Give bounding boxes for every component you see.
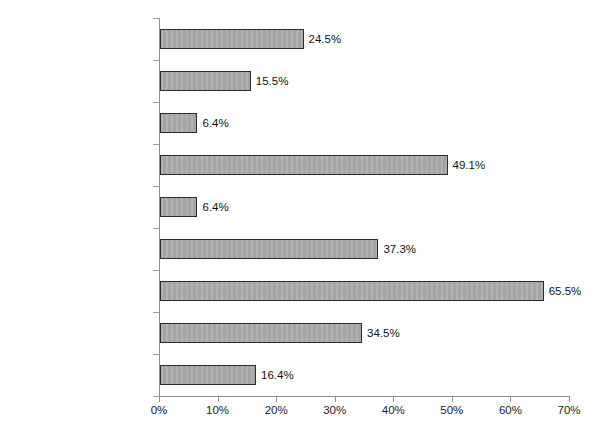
chart-category-row: Managed Care Organization37.3% (0, 228, 599, 270)
bar[interactable] (160, 155, 448, 175)
x-axis-tick (510, 396, 511, 402)
x-axis-tick-label: 30% (305, 404, 365, 416)
bar[interactable] (160, 281, 544, 301)
bar-value-label: 65.5% (549, 281, 582, 301)
bar[interactable] (160, 239, 378, 259)
bar[interactable] (160, 365, 256, 385)
chart-category-row: Long-term Care Facility6.4% (0, 186, 599, 228)
chart-category-row: Physician/Hospital Organization34.5% (0, 312, 599, 354)
x-axis-tick-label: 0% (129, 404, 189, 416)
x-axis-tick (452, 396, 453, 402)
chart-category-row: Physician Group Practice65.5% (0, 270, 599, 312)
chart-category-row: Hospital49.1% (0, 144, 599, 186)
value-axis-line (159, 396, 569, 397)
x-axis-tick (393, 396, 394, 402)
bar[interactable] (160, 71, 251, 91)
bar[interactable] (160, 197, 197, 217)
bar-value-label: 6.4% (202, 113, 228, 133)
bar[interactable] (160, 323, 362, 343)
x-axis-tick-label: 60% (480, 404, 540, 416)
chart-category-row: Freestanding Ambulatory Care24.5% (0, 18, 599, 60)
bar-value-label: 34.5% (367, 323, 400, 343)
y-axis-tick (153, 396, 160, 397)
x-axis-tick-label: 20% (246, 404, 306, 416)
x-axis-tick (218, 396, 219, 402)
bar-value-label: 16.4% (261, 365, 294, 385)
x-axis-tick-label: 40% (363, 404, 423, 416)
x-axis-tick (569, 396, 570, 402)
bar-value-label: 15.5% (256, 71, 289, 91)
x-axis-tick-label: 50% (422, 404, 482, 416)
x-axis-tick-label: 70% (539, 404, 599, 416)
bar[interactable] (160, 29, 304, 49)
x-axis-tick (276, 396, 277, 402)
x-axis-tick (335, 396, 336, 402)
x-axis-tick-label: 10% (188, 404, 248, 416)
bar-value-label: 24.5% (309, 29, 342, 49)
chart-category-row: Home Health15.5% (0, 60, 599, 102)
chart-category-row: Other16.4% (0, 354, 599, 396)
bar-value-label: 37.3% (383, 239, 416, 259)
bar[interactable] (160, 113, 197, 133)
bar-value-label: 49.1% (453, 155, 486, 175)
chart-category-row: Hospice6.4% (0, 102, 599, 144)
bar-chart: 0%10%20%30%40%50%60%70%Freestanding Ambu… (0, 0, 599, 441)
bar-value-label: 6.4% (202, 197, 228, 217)
